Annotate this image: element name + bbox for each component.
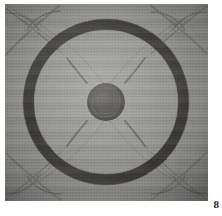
page-number: 8 [214,199,220,210]
photographic-plate [5,4,208,201]
plate-lighting [5,4,208,201]
scanned-page: 8 [0,0,222,216]
shield-illustration [5,4,208,201]
